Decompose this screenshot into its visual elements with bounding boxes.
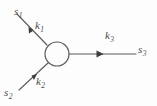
diagram-canvas — [0, 0, 157, 106]
label-k2-subscript: 2 — [41, 81, 45, 90]
label-k1-subscript: 1 — [40, 25, 44, 34]
arrowhead-k3-icon — [97, 51, 104, 58]
edge-outgoing-right — [69, 51, 136, 58]
label-s3-subscript: 3 — [142, 49, 146, 58]
label-k3: k3 — [105, 26, 114, 43]
label-s2: s2 — [4, 83, 12, 100]
label-s2-subscript: 2 — [8, 92, 12, 101]
label-k1: k1 — [35, 16, 44, 33]
label-s1-subscript: 1 — [18, 11, 22, 20]
label-k2: k2 — [36, 72, 45, 89]
interaction-vertex-circle — [45, 42, 69, 66]
label-s1: s1 — [14, 2, 22, 19]
label-k3-subscript: 3 — [110, 35, 114, 44]
label-s3: s3 — [138, 40, 146, 57]
vertex-diagram: s1 k1 s2 k2 k3 s3 — [0, 0, 157, 106]
